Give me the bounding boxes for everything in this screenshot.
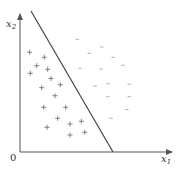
plus-marker: [49, 76, 54, 81]
plus-marker: [41, 105, 46, 110]
plot-canvas: x2 x1 0: [0, 0, 183, 172]
plus-marker: [45, 67, 50, 72]
plus-marker: [45, 125, 50, 130]
x-axis-label: x1: [161, 153, 171, 166]
classification-diagram: x2 x1 0: [0, 0, 183, 172]
negative-class-points: [76, 39, 132, 118]
plus-marker: [82, 130, 87, 135]
y-axis-label: x2: [6, 18, 17, 31]
plus-marker: [39, 85, 44, 90]
plus-marker: [58, 82, 63, 87]
plus-marker: [79, 119, 84, 124]
plus-marker: [28, 71, 33, 76]
plus-marker: [27, 50, 32, 55]
plus-marker: [68, 122, 73, 127]
decision-boundary-line: [31, 11, 113, 152]
plus-marker: [34, 63, 39, 68]
plus-marker: [68, 133, 73, 138]
plus-marker: [42, 55, 47, 60]
positive-class-points: [27, 50, 87, 138]
plus-marker: [55, 116, 60, 121]
plus-marker: [63, 105, 68, 110]
plus-marker: [53, 93, 58, 98]
origin-label: 0: [10, 152, 16, 163]
